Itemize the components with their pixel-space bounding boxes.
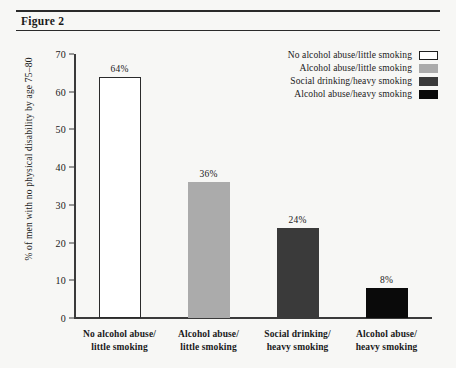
y-tick-label-50: 50 (56, 124, 66, 135)
x-label-2-line2: little smoking (164, 341, 253, 354)
bar-slot-2: 36% (164, 54, 253, 318)
figure-caption: Figure 2 (16, 12, 440, 30)
y-tick-label-60: 60 (56, 86, 66, 97)
chart-legend: No alcohol abuse/little smoking Alcohol … (288, 50, 438, 99)
x-label-1: No alcohol abuse/ little smoking (75, 328, 164, 354)
bar-alcohol-heavy-smoking[interactable] (366, 288, 408, 318)
x-axis-labels: No alcohol abuse/ little smoking Alcohol… (75, 328, 432, 354)
x-label-4-line1: Alcohol abuse/ (342, 328, 431, 341)
legend-label-4: Alcohol abuse/heavy smoking (294, 89, 412, 99)
bar-value-1: 64% (110, 64, 128, 74)
bar-slot-1: 64% (75, 54, 164, 318)
legend-item-4[interactable]: Alcohol abuse/heavy smoking (288, 89, 438, 99)
x-label-1-line1: No alcohol abuse/ (75, 328, 164, 341)
x-label-2-line1: Alcohol abuse/ (164, 328, 253, 341)
x-label-3: Social drinking/ heavy smoking (253, 328, 342, 354)
legend-label-2: Alcohol abuse/little smoking (299, 63, 412, 73)
x-label-3-line2: heavy smoking (253, 341, 342, 354)
legend-item-2[interactable]: Alcohol abuse/little smoking (288, 63, 438, 73)
legend-swatch-3 (419, 77, 438, 86)
y-tick-label-0: 0 (61, 313, 66, 324)
legend-label-1: No alcohol abuse/little smoking (288, 50, 412, 60)
y-tick-label-10: 10 (56, 275, 66, 286)
bar-value-2: 36% (199, 169, 217, 179)
bar-value-3: 24% (288, 215, 306, 225)
y-tick-label-30: 30 (56, 199, 66, 210)
x-label-4: Alcohol abuse/ heavy smoking (342, 328, 431, 354)
y-tick-label-70: 70 (56, 49, 66, 60)
x-label-2: Alcohol abuse/ little smoking (164, 328, 253, 354)
legend-swatch-4 (419, 90, 438, 99)
x-label-3-line1: Social drinking/ (253, 328, 342, 341)
figure-header: Figure 2 (16, 10, 440, 31)
legend-item-1[interactable]: No alcohol abuse/little smoking (288, 50, 438, 60)
legend-swatch-2 (419, 64, 438, 73)
legend-label-3: Social drinking/heavy smoking (290, 76, 412, 86)
bar-social-drinking-heavy-smoking[interactable] (277, 228, 319, 319)
y-axis-title: % of men with no physical disability by … (24, 34, 34, 284)
x-label-4-line2: heavy smoking (342, 341, 431, 354)
y-tick-label-20: 20 (56, 237, 66, 248)
x-label-1-line2: little smoking (75, 341, 164, 354)
bar-value-4: 8% (380, 275, 393, 285)
bar-no-alcohol-little-smoking[interactable] (99, 77, 141, 318)
y-axis-ticks: 70 60 50 40 30 20 10 0 (40, 54, 74, 318)
y-tick-label-40: 40 (56, 162, 66, 173)
legend-swatch-1 (419, 51, 438, 60)
bar-chart: % of men with no physical disability by … (0, 36, 456, 368)
bar-alcohol-little-smoking[interactable] (188, 182, 230, 318)
legend-item-3[interactable]: Social drinking/heavy smoking (288, 76, 438, 86)
header-rule-bottom (16, 30, 440, 31)
